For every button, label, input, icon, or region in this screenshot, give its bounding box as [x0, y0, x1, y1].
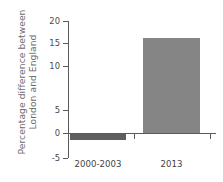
y-tick-label-5: 5 — [38, 106, 60, 114]
y-tick-label-20: 20 — [38, 17, 60, 25]
y-tick-label-neg5: -5 — [38, 154, 60, 162]
y-tick-label-0: 0 — [38, 129, 60, 137]
x-tick-label-2013: 2013 — [143, 160, 200, 169]
y-tick-mark-20 — [63, 21, 68, 22]
bar-2013 — [143, 38, 200, 133]
bar-2000-2003 — [70, 134, 126, 140]
bar-chart: Percentage difference between London and… — [0, 0, 223, 182]
x-tick-label-2000-2003: 2000-2003 — [70, 160, 126, 169]
y-axis-title: Percentage difference between London and… — [11, 2, 45, 162]
x-tick-mark-middle — [134, 134, 135, 139]
x-tick-mark-right — [210, 134, 211, 139]
y-tick-mark-5 — [63, 110, 68, 111]
y-axis-title-line-2: London and England — [28, 35, 39, 130]
y-tick-mark-15 — [63, 43, 68, 44]
x-tick-mark-left — [68, 134, 69, 139]
y-tick-label-10: 10 — [38, 62, 60, 70]
y-tick-mark-10 — [63, 66, 68, 67]
y-tick-label-15: 15 — [38, 39, 60, 47]
y-tick-mark-neg5 — [63, 158, 68, 159]
